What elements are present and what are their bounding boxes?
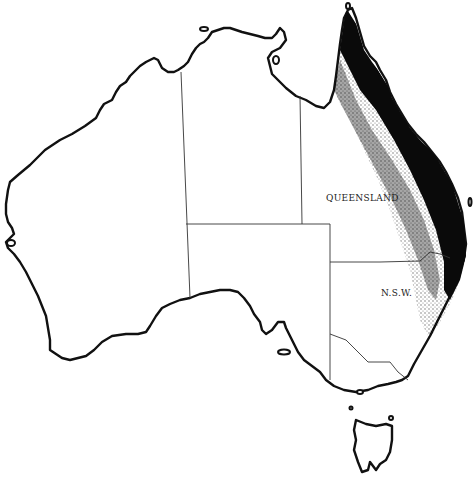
tasmania	[354, 420, 392, 472]
australia-map	[0, 0, 476, 493]
label-nsw: N.S.W.	[381, 288, 412, 298]
label-queensland: QUEENSLAND	[326, 193, 399, 203]
